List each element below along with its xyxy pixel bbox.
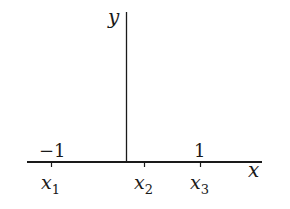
x-axis-label: x — [248, 158, 259, 182]
tick-label-x2: x2 — [134, 171, 153, 197]
value-label-minus-one: −1 — [39, 140, 66, 161]
value-label-one: 1 — [194, 140, 205, 161]
axes-diagram: y x −1 1 x1 x2 x3 — [0, 0, 290, 209]
tick-label-x1: x1 — [41, 171, 60, 197]
tick-label-x3: x3 — [190, 171, 209, 197]
y-axis-label: y — [107, 5, 120, 29]
